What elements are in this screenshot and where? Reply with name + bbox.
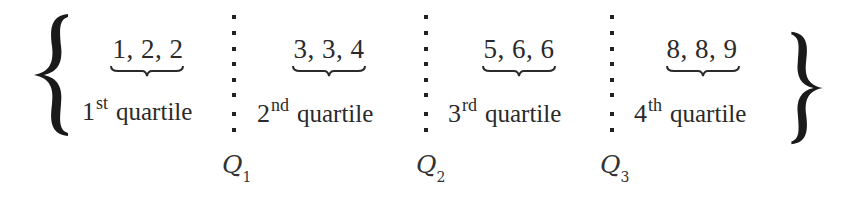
group-3-ordinal: 3 [448,99,461,128]
divider-q1-symbol: Q [222,150,243,179]
divider-q2-dotted-line [424,15,428,135]
group-2-underbrace-icon [292,64,366,80]
group-4-values: 8, 8, 9 [666,34,738,65]
divider-q2-index: 2 [437,169,446,185]
group-1-ordinal-suffix: st [96,93,108,113]
group-1-underbrace-icon [110,64,184,80]
group-2-quartile-label: 2ndquartile [257,99,373,129]
divider-q1-label: Q1 [222,150,251,182]
divider-q2-label: Q2 [416,150,445,182]
divider-q2-symbol: Q [416,150,437,179]
group-3-values: 5, 6, 6 [482,34,556,65]
left-curly-brace-icon [28,10,72,140]
group-3-label: quartile [485,100,561,127]
group-1-values: 1, 2, 2 [110,34,186,65]
group-4-ordinal: 4 [634,99,647,128]
group-1-quartile-label: 1stquartile [82,97,192,127]
group-1-ordinal: 1 [82,97,95,126]
group-4-ordinal-suffix: th [648,95,662,115]
group-3-underbrace-icon [482,64,556,80]
divider-q1-index: 1 [243,169,252,185]
group-2-ordinal: 2 [257,99,270,128]
group-4-underbrace-icon [666,64,740,80]
divider-q3-symbol: Q [600,150,621,179]
divider-q1-dotted-line [232,15,236,135]
group-3-quartile-label: 3rdquartile [448,99,561,129]
divider-q3-dotted-line [610,15,614,135]
group-2-label: quartile [297,100,373,127]
group-4-label: quartile [670,100,746,127]
group-2-values: 3, 3, 4 [292,34,366,65]
right-curly-brace-icon [786,28,830,148]
divider-q3-index: 3 [621,169,630,185]
group-4-quartile-label: 4thquartile [634,99,746,129]
group-3-ordinal-suffix: rd [462,95,477,115]
group-2-ordinal-suffix: nd [271,95,289,115]
divider-q3-label: Q3 [600,150,629,182]
group-1-label: quartile [116,98,192,125]
